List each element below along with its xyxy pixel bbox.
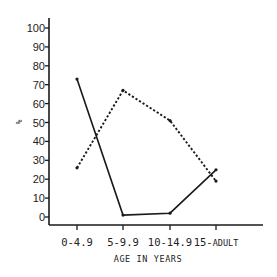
data-series [75, 77, 217, 216]
data-point-marker [75, 77, 78, 80]
x-tick-label: 5-9.9 [107, 236, 139, 248]
data-point-marker [121, 89, 124, 92]
x-axis-label: AGE IN YEARS [114, 254, 183, 264]
data-point-marker [75, 166, 78, 169]
y-tick-label: 20 [33, 173, 45, 185]
data-point-marker [214, 168, 217, 171]
y-tick-label: 80 [33, 60, 45, 72]
y-tick-label: 0 [39, 211, 45, 223]
solid-line-series [77, 79, 216, 215]
y-axis: 0102030405060708090100 [27, 18, 49, 225]
y-tick-label: 40 [33, 135, 45, 147]
x-tick-label: 0-4.9 [61, 236, 93, 248]
data-point-marker [121, 214, 124, 217]
line-chart: 0102030405060708090100 0-4.95-9.910-14.9… [0, 0, 277, 277]
y-tick-label: 50 [33, 117, 45, 129]
data-point-marker [168, 119, 171, 122]
data-point-marker [168, 212, 171, 215]
x-tick-label: 10-14.9 [148, 236, 192, 248]
x-axis: 0-4.95-9.910-14.915-ADULT [49, 225, 263, 248]
y-tick-label: 60 [33, 98, 45, 110]
y-tick-label: 30 [33, 154, 45, 166]
data-point-marker [214, 179, 217, 182]
y-tick-label: 100 [27, 22, 45, 34]
x-tick-label: 15-ADULT [194, 236, 239, 248]
y-tick-label: 70 [33, 79, 45, 91]
y-axis-label: % [14, 120, 23, 125]
y-tick-label: 10 [33, 192, 45, 204]
y-tick-label: 90 [33, 41, 45, 53]
dotted-line-series [77, 90, 216, 181]
